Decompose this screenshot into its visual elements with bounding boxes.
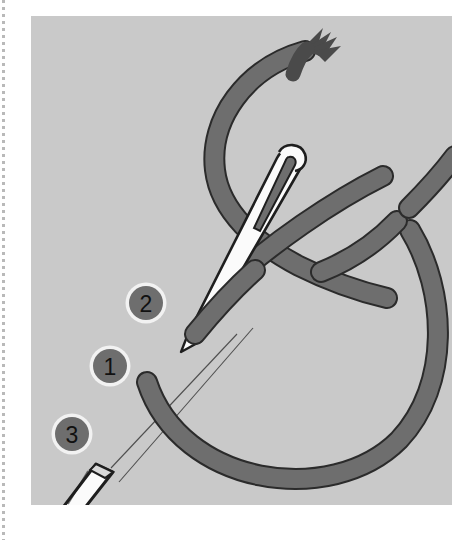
stitch-illustration: 2 1 3 (31, 16, 452, 505)
step-marker-2[interactable]: 2 (126, 283, 167, 324)
perforated-margin-icon (2, 0, 5, 540)
step-marker-3-label: 3 (66, 422, 79, 448)
step-marker-1[interactable]: 1 (90, 346, 131, 387)
step-marker-3[interactable]: 3 (52, 414, 93, 455)
step-marker-1-label: 1 (104, 354, 117, 380)
page-root: 2 1 3 (0, 0, 475, 540)
step-marker-2-label: 2 (140, 291, 153, 317)
